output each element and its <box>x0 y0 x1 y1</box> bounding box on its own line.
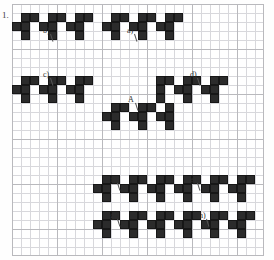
shape-cell-c <box>66 85 75 94</box>
shape-cell-f <box>147 184 156 193</box>
shape-cell-A <box>138 112 147 121</box>
shape-cell-d <box>201 85 210 94</box>
shape-cell-f <box>129 175 138 184</box>
shape-cell-d <box>210 94 219 103</box>
question-number: 1. <box>2 10 9 20</box>
shape-cell-e <box>237 193 246 202</box>
shape-cell-h <box>174 220 183 229</box>
shape-cell-c <box>21 85 30 94</box>
shape-cell-f <box>165 175 174 184</box>
shape-cell-d <box>156 76 165 85</box>
shape-cell-h <box>210 229 219 238</box>
shape-cell-g <box>156 211 165 220</box>
shape-cell-b <box>75 22 84 31</box>
shape-cell-g <box>129 211 138 220</box>
shape-cell-a <box>156 22 165 31</box>
shape-cell-c <box>57 76 66 85</box>
shape-cell-a <box>138 13 147 22</box>
shape-cell-f <box>120 184 129 193</box>
shape-cell-d <box>156 94 165 103</box>
shape-cell-e <box>228 184 237 193</box>
shape-cell-e <box>174 184 183 193</box>
shape-label-d: d) <box>190 71 197 79</box>
shape-cell-e <box>237 175 246 184</box>
shape-cell-e <box>201 184 210 193</box>
shape-cell-f <box>129 184 138 193</box>
shape-cell-g <box>165 211 174 220</box>
shape-cell-A <box>138 103 147 112</box>
shape-cell-f <box>102 184 111 193</box>
shape-cell-A <box>147 103 156 112</box>
shape-cell-a <box>138 22 147 31</box>
shape-cell-A <box>111 112 120 121</box>
shape-cell-h <box>237 229 246 238</box>
shape-label-f: f) <box>110 176 115 184</box>
shape-cell-a <box>111 22 120 31</box>
shape-cell-b <box>57 13 66 22</box>
shape-cell-f <box>93 184 102 193</box>
shape-cell-c <box>48 85 57 94</box>
shape-label-e: e) <box>190 176 196 184</box>
shape-cell-b <box>75 13 84 22</box>
shape-cell-c <box>75 76 84 85</box>
shape-cell-g <box>156 220 165 229</box>
shape-cell-e <box>210 175 219 184</box>
shape-cell-d <box>183 85 192 94</box>
shape-label-a: a) <box>127 27 133 35</box>
shape-cell-h <box>219 211 228 220</box>
shape-cell-A <box>111 103 120 112</box>
shape-cell-g <box>147 220 156 229</box>
shape-cell-b <box>12 22 21 31</box>
shape-cell-c <box>75 94 84 103</box>
shape-cell-A <box>165 112 174 121</box>
shape-cell-A <box>165 103 174 112</box>
shape-cell-A <box>129 112 138 121</box>
shape-cell-d <box>156 85 165 94</box>
shape-cell-g <box>102 229 111 238</box>
shape-cell-e <box>246 175 255 184</box>
shape-cell-d <box>219 76 228 85</box>
shape-cell-A <box>120 103 129 112</box>
shape-cell-g <box>102 220 111 229</box>
shape-label-c: c) <box>43 71 49 79</box>
shape-cell-c <box>12 85 21 94</box>
shape-cell-d <box>210 76 219 85</box>
shape-cell-f <box>156 193 165 202</box>
shape-cell-h <box>183 229 192 238</box>
shape-cell-a <box>147 13 156 22</box>
shape-cell-e <box>210 193 219 202</box>
shape-cell-d <box>165 76 174 85</box>
shape-cell-f <box>129 193 138 202</box>
shape-cell-a <box>165 22 174 31</box>
shape-cell-a <box>165 13 174 22</box>
shape-cell-h <box>210 211 219 220</box>
shape-cell-b <box>66 22 75 31</box>
shape-cell-e <box>219 175 228 184</box>
shape-cell-a <box>111 31 120 40</box>
shape-cell-h <box>183 220 192 229</box>
shape-cell-f <box>102 193 111 202</box>
shape-cell-e <box>210 184 219 193</box>
shape-cell-c <box>21 76 30 85</box>
shape-cell-g <box>129 220 138 229</box>
shape-cell-a <box>120 13 129 22</box>
shape-cell-h <box>210 220 219 229</box>
shape-cell-f <box>156 184 165 193</box>
shape-cell-e <box>183 184 192 193</box>
shape-cell-d <box>174 85 183 94</box>
shape-cell-A <box>156 112 165 121</box>
shape-cell-b <box>30 13 39 22</box>
shape-cell-a <box>165 31 174 40</box>
shape-cell-b <box>21 31 30 40</box>
shape-cell-b <box>75 31 84 40</box>
shape-cell-g <box>120 220 129 229</box>
shape-cell-A <box>165 121 174 130</box>
shape-cell-a <box>102 22 111 31</box>
shape-cell-h <box>246 211 255 220</box>
shape-cell-h <box>237 211 246 220</box>
shape-cell-g <box>156 229 165 238</box>
shape-cell-a <box>174 13 183 22</box>
shape-cell-f <box>138 175 147 184</box>
shape-cell-g <box>129 229 138 238</box>
shape-cell-h <box>237 220 246 229</box>
